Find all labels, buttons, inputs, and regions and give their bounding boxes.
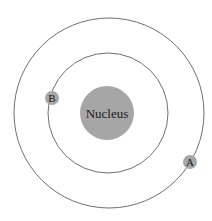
particle-a-label: A (186, 156, 194, 168)
atom-diagram: Nucleus B A (0, 0, 212, 221)
particle-a: A (183, 155, 197, 169)
nucleus: Nucleus (80, 86, 134, 140)
particle-b: B (45, 91, 59, 105)
particle-b-label: B (48, 92, 55, 104)
nucleus-label: Nucleus (86, 106, 129, 121)
